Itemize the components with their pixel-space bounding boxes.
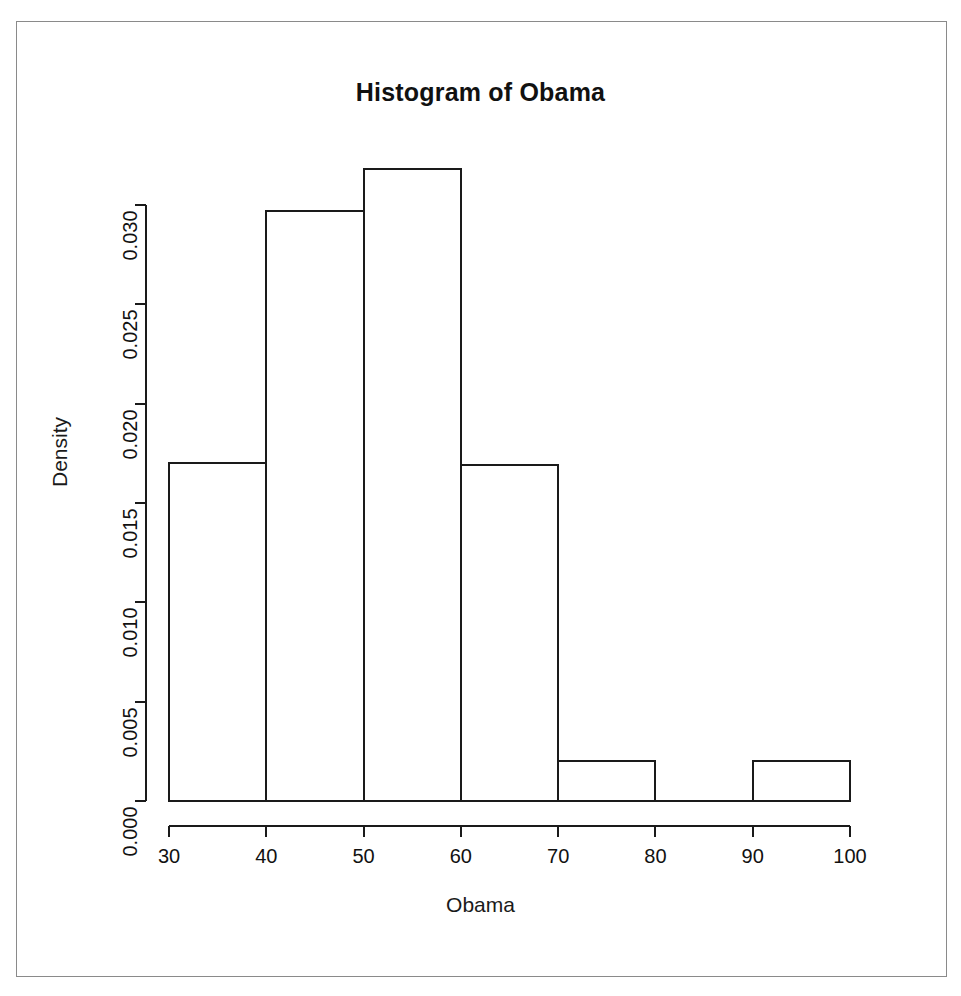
y-tick-label: 0.030	[119, 206, 142, 266]
x-tick-label: 100	[833, 845, 866, 868]
histogram-bar	[364, 169, 461, 801]
histogram-bars	[169, 169, 850, 801]
histogram-bar	[169, 463, 266, 801]
histogram-bar	[558, 761, 655, 801]
histogram-bar	[461, 465, 558, 801]
x-tick-label: 80	[644, 845, 666, 868]
x-tick-label: 60	[450, 845, 472, 868]
y-tick-label: 0.000	[119, 802, 142, 862]
plot-canvas	[0, 0, 961, 996]
figure-page: Histogram of Obama 0.0000.0050.0100.0150…	[0, 0, 961, 996]
x-axis	[169, 826, 850, 837]
x-tick-label: 70	[547, 845, 569, 868]
histogram-bar	[753, 761, 850, 801]
y-tick-label: 0.025	[119, 305, 142, 365]
y-tick-label: 0.010	[119, 603, 142, 663]
histogram-plot: Histogram of Obama 0.0000.0050.0100.0150…	[0, 0, 961, 996]
x-tick-label: 30	[158, 845, 180, 868]
x-tick-label: 40	[255, 845, 277, 868]
y-tick-label: 0.020	[119, 404, 142, 464]
x-tick-label: 50	[352, 845, 374, 868]
y-tick-label: 0.005	[119, 702, 142, 762]
x-tick-label: 90	[742, 845, 764, 868]
histogram-bar	[266, 211, 363, 801]
y-axis-label: Density	[48, 392, 72, 512]
y-tick-label: 0.015	[119, 504, 142, 564]
x-axis-label: Obama	[0, 893, 961, 917]
